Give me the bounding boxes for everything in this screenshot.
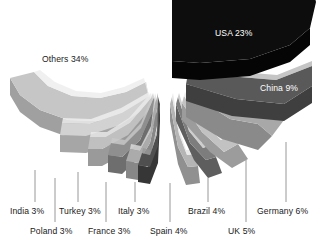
slice-label-spain: Spain 4% bbox=[150, 226, 188, 236]
slice-label-italy: Italy 3% bbox=[118, 206, 149, 216]
slice-label-others: Others 34% bbox=[42, 54, 88, 64]
slice-label-brazil: Brazil 4% bbox=[188, 206, 225, 216]
slice-label-usa: USA 23% bbox=[215, 28, 252, 38]
pie-slice-usa[interactable] bbox=[172, 0, 316, 80]
pie-chart-figure: USA 23% China 9% Others 34% India 3% Tur… bbox=[0, 0, 320, 243]
slice-label-poland: Poland 3% bbox=[30, 226, 72, 236]
slice-label-germany: Germany 6% bbox=[257, 206, 308, 216]
slice-label-france: France 3% bbox=[88, 226, 130, 236]
slice-label-turkey: Turkey 3% bbox=[59, 206, 101, 216]
slice-label-india: India 3% bbox=[10, 206, 44, 216]
slice-label-china: China 9% bbox=[260, 83, 298, 93]
slice-label-uk: UK 5% bbox=[228, 226, 255, 236]
